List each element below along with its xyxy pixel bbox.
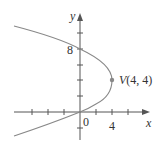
vertex-coords: (4, 4) <box>126 73 152 87</box>
x-axis-label: x <box>145 116 152 130</box>
y-tick-label-8: 8 <box>67 43 73 57</box>
x-tick-label-4: 4 <box>109 119 115 133</box>
x-axis-arrow-icon <box>142 109 150 115</box>
parabola-curve <box>14 26 112 136</box>
origin-label: 0 <box>83 115 89 129</box>
vertex-point <box>110 78 114 82</box>
y-axis-arrow-icon <box>77 13 83 21</box>
x-axis <box>14 109 150 115</box>
vertex-label: V(4, 4) <box>119 73 152 87</box>
y-axis-label: y <box>69 9 76 23</box>
parabola-chart: y x 0 4 8 V(4, 4) <box>0 0 161 152</box>
